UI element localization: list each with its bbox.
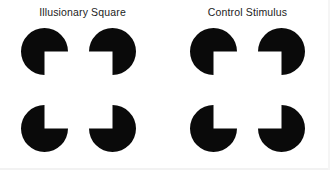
- inducer-control-top-right: [258, 28, 305, 75]
- pacman-shape: [21, 28, 68, 75]
- inducer-illusory-bottom-left: [21, 105, 68, 152]
- pacman-shape: [89, 28, 136, 75]
- inducer-grid-control: [165, 0, 330, 170]
- inducer-grid-illusory: [0, 0, 165, 170]
- inducer-illusory-top-right: [89, 28, 136, 75]
- pacman-shape: [190, 28, 237, 75]
- inducer-control-top-left: [190, 28, 237, 75]
- stimulus-figure: Illusionary Square: [0, 0, 330, 170]
- pacman-shape: [258, 28, 305, 75]
- pacman-shape: [258, 105, 305, 152]
- inducer-illusory-bottom-right: [89, 105, 136, 152]
- inducer-control-bottom-right: [258, 105, 305, 152]
- panel-control-stimulus: Control Stimulus: [165, 0, 330, 170]
- inducer-control-bottom-left: [190, 105, 237, 152]
- pacman-shape: [21, 105, 68, 152]
- panel-illusory-square: Illusionary Square: [0, 0, 165, 170]
- bottom-edge-artifact: [0, 168, 330, 170]
- pacman-shape: [190, 105, 237, 152]
- inducer-illusory-top-left: [21, 28, 68, 75]
- pacman-shape: [89, 105, 136, 152]
